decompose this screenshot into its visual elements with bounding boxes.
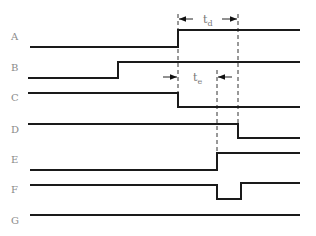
signal-e-trace: [30, 153, 300, 170]
signal-labels: ABCDEFG: [10, 31, 19, 226]
signal-f-trace: [30, 183, 300, 199]
signal-c-trace: [28, 93, 300, 107]
timing-diagram: ABCDEFG td te: [0, 0, 316, 236]
te-label: te: [193, 71, 202, 86]
td-marker: td: [179, 13, 237, 28]
dashed-reference-lines: [178, 14, 238, 153]
signal-b-label: B: [11, 62, 18, 73]
signal-b-trace: [28, 62, 300, 78]
signal-a-label: A: [10, 31, 19, 42]
te-marker: te: [163, 71, 232, 86]
td-label: td: [203, 13, 213, 28]
signal-d-label: D: [11, 124, 19, 135]
signal-e-label: E: [11, 154, 18, 165]
timing-diagram-canvas: ABCDEFG td te: [0, 0, 316, 236]
signal-f-label: F: [11, 184, 18, 195]
signal-traces: [28, 30, 300, 215]
signal-a-trace: [30, 30, 300, 47]
signal-c-label: C: [11, 92, 19, 103]
signal-g-label: G: [11, 215, 19, 226]
signal-d-trace: [28, 124, 300, 138]
